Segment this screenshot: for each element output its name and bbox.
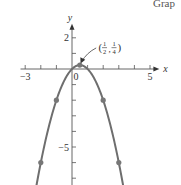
caption-text: Grap [153,0,175,9]
parabola-curve [35,65,124,185]
x-axis-label: x [162,63,168,74]
data-point [38,160,43,165]
fraction-denominator: 4 [112,48,116,55]
x-axis-arrow-icon [153,67,159,72]
x-tick-label: 5 [148,71,153,82]
y-axis-arrow-icon [70,24,75,30]
fraction-numerator: 1 [103,40,106,47]
x-tick-label: 0 [74,71,79,82]
graph-figure: Grap −3052−5xy(12,14) [0,0,181,185]
annotation-paren-close: ) [118,41,122,54]
annotation-arrow-icon [80,57,85,63]
fraction-denominator: 2 [103,48,106,55]
fraction-numerator: 1 [112,40,115,47]
data-point [116,160,121,165]
data-point [77,63,82,68]
data-point [54,98,59,103]
data-point [101,98,106,103]
y-tick-label: 2 [64,32,69,43]
y-tick-label: −5 [58,142,69,153]
parabola-plot: −3052−5xy(12,14) [0,0,181,185]
y-axis-label: y [67,12,73,23]
annotation-comma: , [109,44,111,54]
x-tick-label: −3 [20,71,31,82]
